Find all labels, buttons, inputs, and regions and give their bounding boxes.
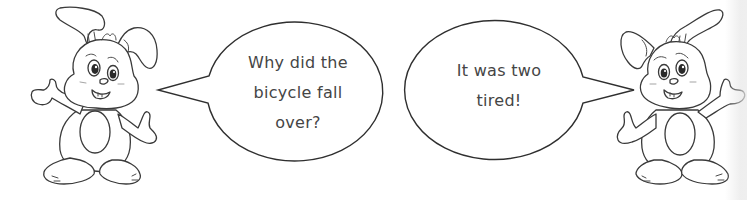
page-edge-shadow	[725, 0, 747, 200]
comic-stage: Why did the bicycle fall over? It was tw…	[0, 0, 747, 200]
question-line-1: Why did the	[218, 48, 378, 78]
bunny-belly	[80, 111, 110, 153]
question-text: Why did the bicycle fall over?	[218, 48, 378, 138]
bunny-ear-icon	[56, 7, 105, 44]
answer-text: It was two tired!	[424, 56, 574, 116]
bunny-foot	[44, 158, 95, 184]
answer-line-1: It was two	[424, 56, 574, 86]
left-bunny-illustration	[31, 7, 157, 184]
bunny-nose	[670, 79, 678, 84]
question-line-3: over?	[218, 108, 378, 138]
answer-line-2: tired!	[424, 86, 574, 116]
question-line-2: bicycle fall	[218, 78, 378, 108]
bunny-nose	[100, 79, 108, 84]
bunny-belly	[665, 113, 695, 155]
